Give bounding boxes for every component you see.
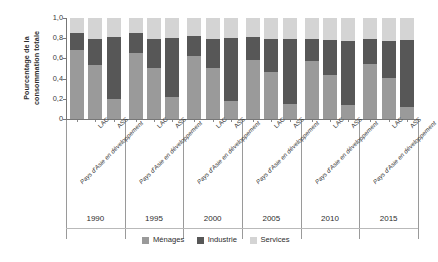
bar-segment-menages [129, 53, 143, 119]
year-row-bottom-line [66, 228, 418, 229]
y-axis-tick-mark [63, 18, 66, 19]
stacked-bar[interactable] [246, 18, 260, 119]
bar-segment-menages [246, 60, 260, 119]
stacked-bar[interactable] [107, 18, 121, 119]
bar-segment-menages [363, 64, 377, 119]
stacked-bar[interactable] [341, 18, 355, 119]
bar-segment-services [323, 18, 337, 40]
legend-item[interactable]: Services [250, 236, 290, 244]
stacked-bar[interactable] [187, 18, 201, 119]
stacked-bar[interactable] [305, 18, 319, 119]
legend-label: Ménages [153, 236, 184, 244]
bar-segment-menages [264, 72, 278, 119]
legend-swatch [197, 237, 204, 244]
plot-area: 1,00,80,60,40,20 [66, 18, 418, 119]
bar-segment-industrie [341, 41, 355, 105]
bar-segment-industrie [264, 39, 278, 71]
bar-segment-menages [147, 68, 161, 119]
x-axis-category-label: Pays d'Asie en développement [196, 120, 261, 185]
x-axis-category-label: Pays d'Asie en développement [138, 120, 203, 185]
bars-layer [66, 18, 418, 119]
stacked-bar[interactable] [88, 18, 102, 119]
year-group-separator [66, 119, 67, 239]
x-axis-year-label: 1995 [145, 215, 163, 223]
bar-segment-services [283, 18, 297, 39]
stacked-bar[interactable] [129, 18, 143, 119]
y-axis-tick-label: 0,6 [53, 55, 63, 62]
legend-swatch [250, 237, 257, 244]
bar-segment-menages [88, 65, 102, 119]
bar-segment-services [382, 18, 396, 41]
stacked-bar[interactable] [382, 18, 396, 119]
stacked-bar[interactable] [264, 18, 278, 119]
x-axis-category-label: Pays d'Asie en développement [79, 120, 144, 185]
stacked-bar[interactable] [400, 18, 414, 119]
bar-segment-industrie [224, 38, 238, 101]
bar-segment-industrie [246, 37, 260, 60]
x-axis-category-label: Pays d'Asie en développement [314, 120, 379, 185]
legend-swatch [142, 237, 149, 244]
x-axis-category-label: Pays d'Asie en développement [255, 120, 320, 185]
bar-segment-industrie [165, 38, 179, 97]
y-axis-tick-label: 1,0 [53, 14, 63, 21]
bar-segment-services [341, 18, 355, 41]
y-axis-title-text: Pourcentage de laconsommation totale [22, 31, 41, 105]
stacked-bar[interactable] [165, 18, 179, 119]
y-axis-tick-label: 0,2 [53, 95, 63, 102]
bar-segment-menages [341, 105, 355, 119]
stacked-bar[interactable] [147, 18, 161, 119]
bar-segment-menages [70, 50, 84, 119]
bar-segment-menages [305, 61, 319, 119]
legend-label: Industrie [208, 236, 237, 244]
bar-segment-services [206, 18, 220, 39]
legend-label: Services [260, 236, 289, 244]
stacked-bar[interactable] [70, 18, 84, 119]
bar-segment-industrie [70, 33, 84, 50]
bar-segment-services [129, 18, 143, 33]
bar-segment-industrie [382, 41, 396, 77]
bar-segment-services [305, 18, 319, 39]
bar-segment-industrie [305, 39, 319, 61]
bar-segment-menages [323, 75, 337, 119]
bar-segment-industrie [147, 39, 161, 68]
bar-segment-industrie [107, 37, 121, 99]
bar-segment-services [107, 18, 121, 37]
bar-segment-menages [206, 68, 220, 119]
bar-segment-industrie [363, 39, 377, 64]
legend: MénagesIndustrieServices [0, 236, 432, 244]
bar-segment-services [400, 18, 414, 40]
bar-segment-industrie [400, 40, 414, 107]
stacked-bar[interactable] [323, 18, 337, 119]
x-axis-year-label: 2015 [380, 215, 398, 223]
bar-segment-services [363, 18, 377, 39]
bar-segment-industrie [88, 39, 102, 65]
bar-segment-services [147, 18, 161, 39]
bar-segment-services [224, 18, 238, 38]
bar-segment-services [165, 18, 179, 38]
bar-segment-services [264, 18, 278, 39]
y-axis-tick-mark [63, 38, 66, 39]
legend-item[interactable]: Industrie [197, 236, 237, 244]
stacked-bar[interactable] [206, 18, 220, 119]
y-axis-title: Pourcentage de laconsommation totale [18, 14, 44, 122]
legend-item[interactable]: Ménages [142, 236, 184, 244]
bar-segment-industrie [187, 36, 201, 56]
bar-segment-industrie [283, 39, 297, 104]
x-axis-year-label: 2010 [321, 215, 339, 223]
bar-segment-services [246, 18, 260, 37]
stacked-bar[interactable] [363, 18, 377, 119]
y-axis-tick-label: 0,4 [53, 75, 63, 82]
bar-segment-industrie [206, 39, 220, 68]
x-axis-year-label: 2000 [204, 215, 222, 223]
bar-segment-industrie [323, 40, 337, 74]
stacked-bar[interactable] [224, 18, 238, 119]
y-axis-tick-mark [63, 79, 66, 80]
y-axis-tick-mark [63, 58, 66, 59]
stacked-bar[interactable] [283, 18, 297, 119]
x-axis-year-label: 1990 [86, 215, 104, 223]
bar-segment-menages [283, 104, 297, 119]
bar-segment-menages [224, 101, 238, 119]
bar-segment-menages [165, 97, 179, 119]
bar-segment-menages [107, 99, 121, 119]
bar-segment-industrie [129, 33, 143, 53]
